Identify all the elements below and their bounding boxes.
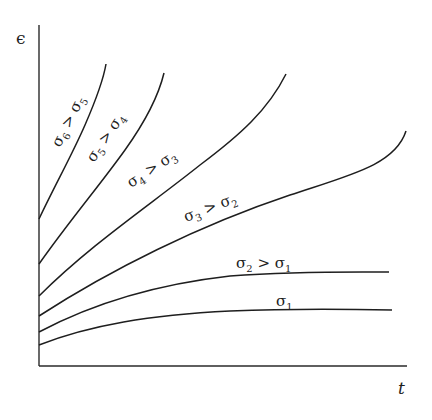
svg-text:σ6 > σ5: σ6 > σ5	[48, 92, 91, 150]
curve-sigma1	[39, 309, 392, 345]
label-sigma3: σ3 > σ2	[181, 189, 240, 228]
label-sigma6: σ6 > σ5	[48, 92, 91, 150]
y-axis-label: ϵ	[16, 28, 26, 48]
label-sigma5: σ5 > σ4	[82, 109, 130, 166]
svg-text:σ3 > σ2: σ3 > σ2	[181, 189, 240, 228]
label-sigma1: σ1	[276, 292, 293, 312]
creep-curves-diagram: ϵ t σ1 σ2 > σ1 σ3 > σ2 σ4 > σ3 σ5 > σ4 σ…	[0, 0, 432, 420]
x-axis-label: t	[398, 378, 405, 398]
label-sigma2: σ2 > σ1	[236, 254, 291, 274]
curve-sigma2	[39, 272, 389, 332]
svg-text:σ5 > σ4: σ5 > σ4	[82, 109, 130, 166]
